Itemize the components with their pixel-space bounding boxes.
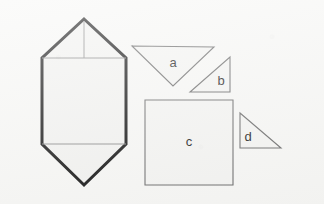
shape-a-group: a: [132, 46, 214, 86]
geometry-figure-canvas: a b c d: [0, 0, 324, 204]
triangle-b-label: b: [217, 73, 224, 88]
square-c-label: c: [186, 134, 193, 149]
shape-d-group: d: [240, 113, 281, 148]
triangle-a-label: a: [169, 55, 177, 70]
triangle-d-label: d: [244, 129, 251, 144]
shape-c-group: c: [145, 100, 233, 185]
shape-hexagon-group: [42, 19, 126, 185]
geometry-diagram: a b c d: [0, 0, 324, 204]
